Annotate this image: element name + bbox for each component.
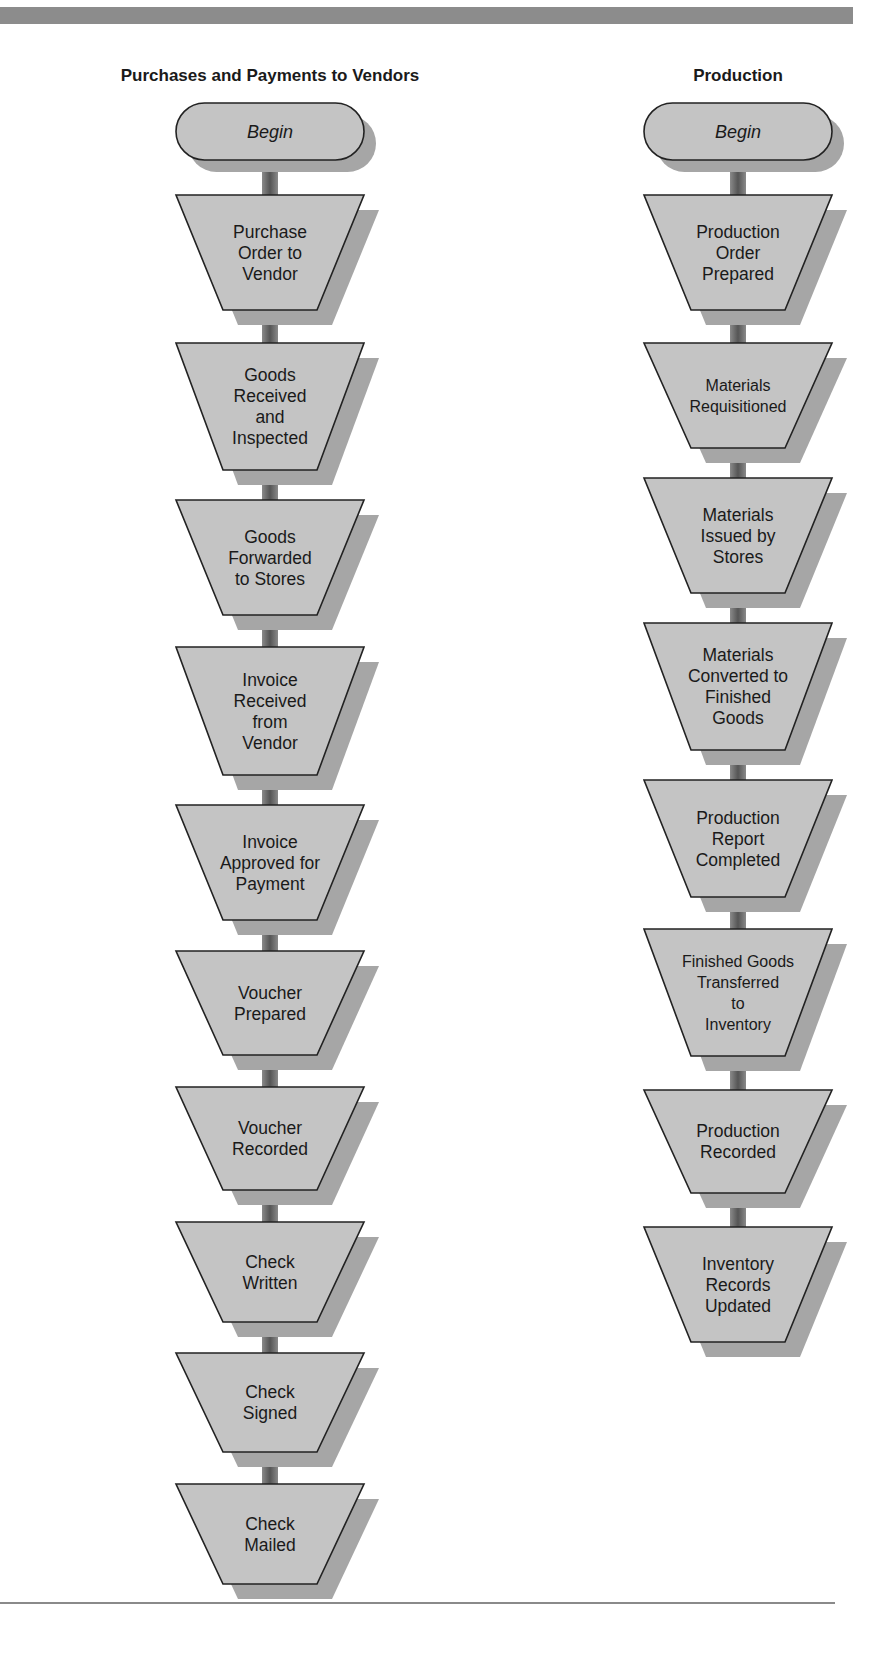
step-materials-converted-to-finished-goods: MaterialsConverted toFinishedGoods	[644, 623, 847, 765]
step-begin: Begin	[644, 103, 844, 172]
step-label: PurchaseOrder toVendor	[233, 222, 307, 284]
step-label: VoucherPrepared	[234, 983, 306, 1024]
step-label: InventoryRecordsUpdated	[702, 1254, 774, 1316]
step-materials-requisitioned: MaterialsRequisitioned	[644, 343, 847, 463]
step-label: CheckWritten	[242, 1252, 297, 1293]
step-finished-goods-transferred-to-inventory: Finished GoodsTransferredtoInventory	[644, 929, 847, 1071]
step-voucher-prepared: VoucherPrepared	[176, 951, 379, 1070]
step-invoice-received-from-vendor: InvoiceReceivedfromVendor	[176, 647, 379, 790]
step-purchase-order-to-vendor: PurchaseOrder toVendor	[176, 195, 379, 325]
step-production-recorded: ProductionRecorded	[644, 1090, 847, 1208]
step-check-written: CheckWritten	[176, 1222, 379, 1337]
step-inventory-records-updated: InventoryRecordsUpdated	[644, 1227, 847, 1357]
flow-column-production: BeginProductionOrderPreparedMaterialsReq…	[644, 103, 847, 1357]
step-production-report-completed: ProductionReportCompleted	[644, 780, 847, 912]
step-check-mailed: CheckMailed	[176, 1484, 379, 1599]
step-label: Begin	[247, 122, 293, 142]
step-begin: Begin	[176, 103, 376, 172]
bottom-rule	[0, 1602, 835, 1604]
step-check-signed: CheckSigned	[176, 1353, 379, 1467]
step-voucher-recorded: VoucherRecorded	[176, 1087, 379, 1205]
step-label: CheckSigned	[243, 1382, 298, 1423]
step-goods-received-and-inspected: GoodsReceivedandInspected	[176, 343, 379, 485]
flowchart-canvas: BeginPurchaseOrder toVendorGoodsReceived…	[0, 0, 892, 1653]
flow-column-purchases: BeginPurchaseOrder toVendorGoodsReceived…	[176, 103, 379, 1599]
step-label: Begin	[715, 122, 761, 142]
step-label: ProductionRecorded	[696, 1121, 780, 1162]
step-production-order-prepared: ProductionOrderPrepared	[644, 195, 847, 325]
step-invoice-approved-for-payment: InvoiceApproved forPayment	[176, 805, 379, 935]
step-label: VoucherRecorded	[232, 1118, 308, 1159]
step-materials-issued-by-stores: MaterialsIssued byStores	[644, 478, 847, 608]
step-goods-forwarded-to-stores: GoodsForwardedto Stores	[176, 500, 379, 630]
step-label: CheckMailed	[244, 1514, 296, 1555]
